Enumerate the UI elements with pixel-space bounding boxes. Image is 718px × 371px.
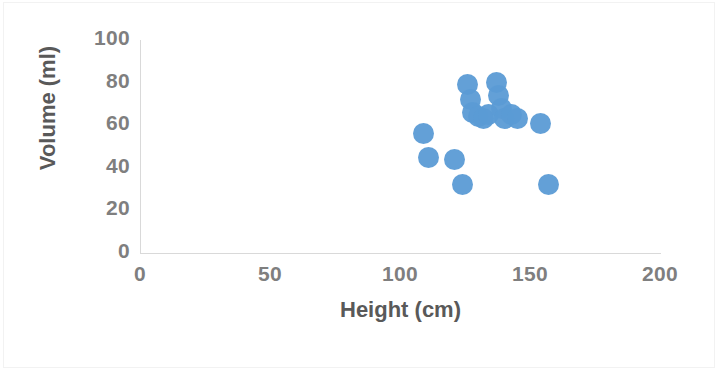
data-point: [452, 174, 473, 195]
x-tick-label: 100: [382, 262, 418, 286]
data-point: [418, 147, 439, 168]
x-tick-label: 200: [642, 262, 678, 286]
scatter-chart: 020406080100 050100150200 Volume (ml) He…: [0, 0, 718, 371]
x-tick-label: 0: [134, 262, 146, 286]
data-point: [444, 149, 465, 170]
data-point: [530, 113, 551, 134]
x-tick-label: 50: [258, 262, 282, 286]
y-axis-title: Volume (ml): [35, 18, 61, 198]
x-axis-title: Height (cm): [140, 297, 661, 323]
x-tick-label: 150: [512, 262, 548, 286]
data-point: [507, 108, 528, 129]
data-point: [538, 174, 559, 195]
data-point: [413, 123, 434, 144]
plot-area: [140, 40, 660, 253]
